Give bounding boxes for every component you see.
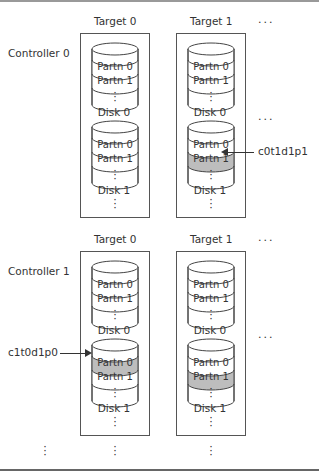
disk-label: Disk 0 (79, 106, 149, 118)
partition-label: Partn 0 (91, 139, 139, 150)
disk-label: Disk 0 (175, 106, 245, 118)
more-targets-ellipsis: ... (258, 110, 275, 123)
more-targets-ellipsis: ... (258, 13, 275, 26)
more-targets-ellipsis: ... (258, 231, 275, 244)
bottom-rule (0, 469, 319, 471)
partition-label: Partn 0 (91, 357, 139, 368)
partition-ellipsis: ··· (110, 387, 120, 399)
partition-label: Partn 0 (187, 279, 235, 290)
partition-ellipsis: ··· (110, 169, 120, 181)
partition-label: Partn 0 (187, 61, 235, 72)
target-label: Target 0 (94, 233, 137, 245)
partition-ellipsis: ··· (206, 91, 216, 103)
partition-ellipsis: ··· (110, 309, 120, 321)
callout-label: c1t0d1p0 (8, 346, 58, 358)
disk-label: Disk 0 (175, 324, 245, 336)
more-targets-ellipsis: ... (258, 328, 275, 341)
partition-ellipsis: ··· (110, 91, 120, 103)
partition-label: Partn 1 (187, 293, 235, 304)
controller-label: Controller 1 (8, 265, 70, 277)
partition-label: Partn 1 (91, 75, 139, 86)
disk-cylinder: Partn 0Partn 1··· (187, 339, 235, 407)
disk-cylinder: Partn 0Partn 1··· (91, 121, 139, 189)
partition-ellipsis: ··· (206, 169, 216, 181)
partition-label: Partn 1 (91, 153, 139, 164)
target-disk-ellipsis: ··· (110, 416, 120, 428)
target-label: Target 1 (190, 233, 233, 245)
controller-label: Controller 0 (8, 47, 70, 59)
arrowhead-icon (221, 148, 228, 156)
disk-cylinder: Partn 0Partn 1··· (187, 261, 235, 329)
target-disk-ellipsis: ··· (206, 198, 216, 210)
target-disk-ellipsis: ··· (206, 416, 216, 428)
disk-cylinder: Partn 0Partn 1··· (187, 43, 235, 111)
partition-label: Partn 1 (187, 371, 235, 382)
partition-label: Partn 1 (91, 293, 139, 304)
arrowhead-icon (85, 349, 92, 357)
target-label: Target 1 (190, 15, 233, 27)
partition-label: Partn 0 (187, 357, 235, 368)
disk-cylinder: Partn 0Partn 1··· (91, 261, 139, 329)
partition-label: Partn 0 (91, 279, 139, 290)
top-rule (0, 0, 319, 2)
callout-arrow (60, 353, 85, 354)
target-disk-ellipsis: ··· (110, 198, 120, 210)
partition-label: Partn 0 (91, 61, 139, 72)
callout-arrow (226, 152, 254, 153)
more-controllers-ellipsis: ··· (40, 445, 50, 457)
more-disks-ellipsis: ··· (110, 445, 120, 457)
more-disks-ellipsis: ··· (206, 445, 216, 457)
disk-cylinder: Partn 0Partn 1··· (91, 339, 139, 407)
disk-label: Disk 0 (79, 324, 149, 336)
callout-label: c0t1d1p1 (258, 145, 308, 157)
partition-ellipsis: ··· (206, 387, 216, 399)
target-label: Target 0 (94, 15, 137, 27)
partition-label: Partn 1 (187, 75, 235, 86)
disk-cylinder: Partn 0Partn 1··· (91, 43, 139, 111)
partition-ellipsis: ··· (206, 309, 216, 321)
partition-label: Partn 1 (91, 371, 139, 382)
